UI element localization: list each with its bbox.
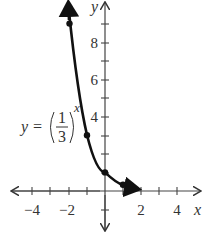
point-neg1-3 (84, 132, 90, 138)
y-tick-label-6: 6 (91, 72, 99, 88)
point-0-1 (102, 169, 108, 175)
x-tick-label-neg4: −4 (24, 202, 40, 218)
x-tick-label-4: 4 (173, 202, 181, 218)
equation-denominator: 3 (58, 128, 66, 145)
exponential-graph: −4 −2 2 4 4 6 8 x y y = 1 3 x (0, 0, 213, 234)
point-1-third (120, 182, 126, 188)
y-tick-label-4: 4 (91, 109, 99, 125)
y-tick-label-8: 8 (91, 35, 99, 51)
x-axis-label: x (193, 201, 201, 218)
exponential-curve (69, 9, 137, 189)
point-neg2-9 (66, 20, 72, 26)
equation-exponent: x (73, 100, 80, 115)
x-tick-label-neg2: −2 (59, 202, 75, 218)
equation-label: y = 1 3 x (19, 100, 80, 145)
y-axis-label: y (89, 0, 99, 16)
curve-top-arrow (68, 4, 69, 20)
x-tick-label-2: 2 (137, 202, 145, 218)
equation-numerator: 1 (58, 109, 66, 126)
equation-lhs: y = (19, 118, 43, 136)
svg-text:y =: y = (19, 118, 43, 136)
